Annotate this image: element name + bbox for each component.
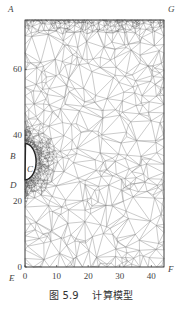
mesh-figure: 0102030400204060 A G B C D E F: [0, 0, 182, 309]
x-tick-label: 30: [115, 271, 125, 281]
x-tick-label: 0: [23, 271, 28, 281]
x-tick-label: 20: [84, 271, 94, 281]
y-tick-label: 60: [13, 64, 23, 74]
point-label-g: G: [168, 4, 175, 14]
point-label-a: A: [7, 4, 14, 14]
point-label-e: E: [8, 273, 15, 283]
caption-number: 图 5.9: [49, 290, 79, 301]
point-label-d: D: [9, 180, 17, 190]
finite-element-mesh: [25, 20, 164, 267]
point-label-b: B: [10, 151, 16, 161]
point-label-c: C: [27, 164, 34, 174]
x-tick-label: 40: [147, 271, 157, 281]
point-label-f: F: [167, 264, 174, 274]
figure-caption: 图 5.9 计算模型: [0, 287, 182, 302]
y-tick-label: 40: [13, 130, 23, 140]
y-tick-label: 20: [13, 196, 23, 206]
caption-title: 计算模型: [92, 290, 133, 301]
y-tick-label: 0: [18, 262, 23, 272]
x-tick-label: 10: [52, 271, 62, 281]
